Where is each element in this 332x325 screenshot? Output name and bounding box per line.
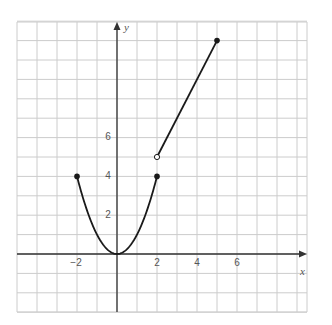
function-curves bbox=[77, 41, 217, 254]
x-axis-label: x bbox=[300, 265, 305, 277]
graph-plot bbox=[0, 0, 332, 325]
grid-lines bbox=[17, 21, 307, 312]
y-tick-2: 2 bbox=[105, 209, 111, 220]
axes bbox=[17, 22, 307, 312]
x-tick-2: 2 bbox=[154, 257, 160, 268]
y-axis-label: y bbox=[124, 21, 129, 33]
y-tick-6: 6 bbox=[105, 131, 111, 142]
x-tick-6: 6 bbox=[234, 257, 240, 268]
endpoints bbox=[74, 38, 220, 179]
x-tick-4: 4 bbox=[194, 257, 200, 268]
x-tick-neg2: −2 bbox=[70, 257, 81, 268]
y-tick-4: 4 bbox=[105, 170, 111, 181]
